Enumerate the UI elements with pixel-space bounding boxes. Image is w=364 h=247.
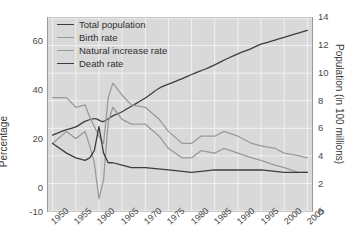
chart-legend: Total populationBirth rateNatural increa… — [57, 20, 167, 69]
y-axis-left-ticks: -100204060 — [17, 0, 43, 247]
legend-label-3: Death rate — [79, 59, 123, 69]
y-right-tick-7: 14 — [318, 11, 342, 22]
chart-root: -100204060 02468101214 19501955196019651… — [0, 0, 364, 247]
y-axis-right-title: Population (in 100 millions) — [334, 44, 345, 164]
y-left-tick-2: 20 — [17, 133, 43, 144]
legend-label-0: Total population — [79, 20, 146, 30]
legend-item-0[interactable]: Total population — [57, 20, 167, 30]
legend-item-2[interactable]: Natural increase rate — [57, 46, 167, 56]
y-left-tick-1: 0 — [17, 182, 43, 193]
legend-item-3[interactable]: Death rate — [57, 59, 167, 69]
legend-swatch-icon-1 — [57, 37, 74, 38]
series-line-2 — [53, 107, 308, 199]
y-axis-left-title: Percentage — [0, 116, 9, 167]
legend-swatch-icon-3 — [57, 63, 74, 64]
y-right-tick-1: 2 — [318, 178, 342, 189]
legend-item-1[interactable]: Birth rate — [57, 33, 167, 43]
legend-swatch-icon-0 — [57, 24, 74, 25]
y-left-tick-0: -10 — [17, 206, 43, 217]
y-left-tick-3: 40 — [17, 84, 43, 95]
legend-swatch-icon-2 — [57, 50, 74, 51]
x-axis-ticks: 1950195519601965197019751980198519901995… — [0, 217, 364, 247]
y-left-tick-4: 60 — [17, 35, 43, 46]
legend-label-1: Birth rate — [79, 33, 118, 43]
legend-label-2: Natural increase rate — [79, 46, 167, 56]
series-line-1 — [53, 83, 308, 158]
